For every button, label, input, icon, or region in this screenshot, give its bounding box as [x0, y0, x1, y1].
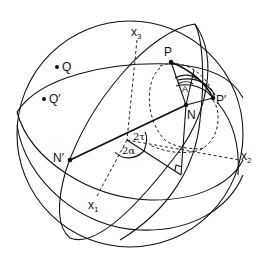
- label-p-prime: P′: [216, 93, 227, 107]
- label-angle-2alpha: 2α: [122, 145, 135, 156]
- label-n-prime: N′: [53, 151, 65, 165]
- label-q-prime: Q′: [49, 92, 61, 106]
- point-n: [184, 103, 189, 108]
- label-angle-2tau: 2τ: [133, 131, 145, 142]
- label-angle-a: A: [182, 84, 188, 94]
- sphere-diagram: P P′ N N′ Q Q′ x3 x1 x2 A 2τ 2α: [0, 0, 262, 259]
- great-circle-horizontal-front: [17, 112, 243, 200]
- label-x3: x3: [131, 25, 142, 41]
- label-n: N: [187, 108, 196, 122]
- point-q-prime: [42, 97, 46, 101]
- line-n-down: [181, 105, 186, 175]
- label-p: P: [164, 45, 172, 59]
- arc-right-edge: [218, 103, 238, 175]
- point-p-prime: [211, 96, 216, 101]
- axis-x3: [127, 40, 137, 140]
- point-n-prime: [68, 158, 73, 163]
- line-n-to-p-prime: [186, 98, 213, 105]
- label-x1: x1: [88, 198, 99, 214]
- point-q: [55, 65, 59, 69]
- point-p: [169, 60, 174, 65]
- sphere-outline: [17, 21, 243, 247]
- label-q: Q: [62, 60, 71, 74]
- label-x2: x2: [241, 149, 252, 165]
